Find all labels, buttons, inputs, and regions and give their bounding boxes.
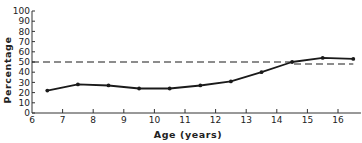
x-tick-label: 9 [121,115,127,125]
data-point-marker [76,83,80,87]
data-point-marker [351,57,355,61]
y-tick-label: 80 [19,27,31,37]
x-axis-label: Age (years) [154,129,223,140]
y-axis-label: Percentage [2,36,13,103]
reference-dashed-line [32,62,353,64]
x-tick-label: 14 [271,115,283,125]
data-point-marker [107,84,111,88]
x-tick-label: 8 [90,115,96,125]
y-tick-label: 100 [13,6,30,16]
x-tick-label: 13 [240,115,251,125]
y-tick-label: 20 [19,88,31,98]
data-point-marker [260,70,264,74]
data-point-marker [321,56,325,60]
x-tick-label: 10 [149,115,161,125]
x-axis: 678910111213141516 [29,109,361,125]
series-layer [32,56,355,92]
y-tick-label: 50 [19,57,31,67]
y-tick-label: 60 [19,47,31,57]
y-tick-label: 90 [19,16,31,26]
x-tick-label: 16 [332,115,344,125]
x-tick-label: 7 [60,115,66,125]
x-tick-label: 12 [210,115,221,125]
x-tick-label: 11 [179,115,190,125]
data-point-marker [198,84,202,88]
y-tick-label: 10 [19,98,31,108]
data-point-marker [45,89,49,93]
line-chart: 0102030405060708090100 67891011121314151… [0,0,362,143]
x-tick-label: 6 [29,115,35,125]
y-tick-label: 70 [19,37,31,47]
y-tick-label: 40 [19,67,31,77]
y-axis: 0102030405060708090100 [13,6,35,118]
y-tick-label: 30 [19,78,31,88]
data-point-marker [137,87,141,91]
data-point-marker [229,79,233,83]
x-tick-label: 15 [302,115,313,125]
data-point-marker [168,87,172,91]
